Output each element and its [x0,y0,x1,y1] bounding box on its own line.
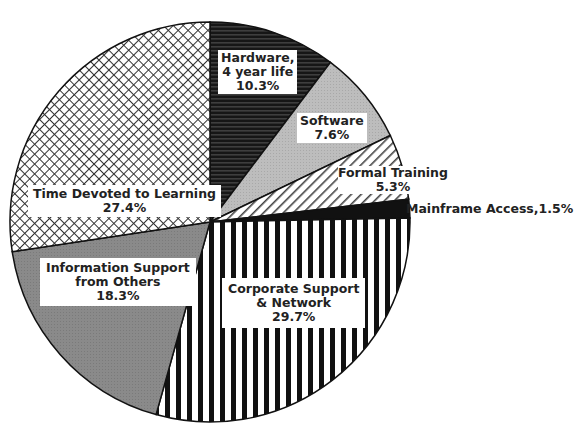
label-line: 7.6% [300,128,364,142]
label-line: 18.3% [46,289,190,303]
label-information: Information Support from Others 18.3% [40,258,196,306]
pie-slices [10,22,410,422]
label-line: from Others [46,275,190,289]
label-line: & Network [228,296,359,310]
label-line: 5.3% [338,180,448,194]
label-line: 27.4% [33,201,216,215]
label-line: Software [300,114,364,128]
label-line: Hardware, [221,51,294,65]
label-line: Mainframe Access,1.5% [406,201,573,216]
label-corporate: Corporate Support & Network 29.7% [222,278,365,328]
label-hardware: Hardware, 4 year life 10.3% [218,50,297,94]
label-line: Information Support [46,261,190,275]
pie-slice-time-devoted-to-learning [10,22,210,252]
label-software: Software 7.6% [297,113,367,143]
label-line: 4 year life [221,65,294,79]
label-formal-training: Formal Training 5.3% [338,166,448,194]
label-line: Corporate Support [228,282,359,296]
label-mainframe: Mainframe Access,1.5% [406,202,573,216]
label-line: Formal Training [338,166,448,180]
label-line: 10.3% [221,79,294,93]
label-line: Time Devoted to Learning [33,187,216,201]
label-time-devoted: Time Devoted to Learning 27.4% [28,185,221,217]
label-line: 29.7% [228,310,359,324]
